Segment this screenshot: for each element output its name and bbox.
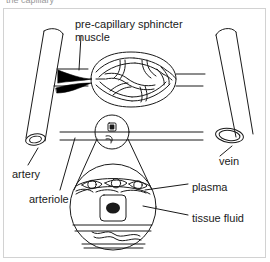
tissue-cell	[100, 195, 126, 221]
capillary-network	[91, 52, 176, 107]
tissue-fluid-leader-line	[143, 206, 188, 215]
capillary-to-vein-branch	[176, 74, 205, 86]
label-vein: vein	[219, 155, 239, 168]
vein-vessel	[215, 28, 253, 144]
label-arteriole: arteriole	[29, 193, 69, 206]
arteriole-leader-line	[60, 138, 75, 190]
endothelial-cells	[76, 179, 147, 193]
capillary-diagram-figure: the capillary	[0, 0, 270, 262]
label-tissue-fluid: tissue fluid	[192, 212, 244, 225]
capillary-magnified-detail	[70, 164, 156, 250]
artery-leader-line	[28, 148, 38, 165]
label-plasma: plasma	[192, 181, 227, 194]
sphincter-muscle	[56, 70, 92, 93]
label-artery: artery	[12, 168, 40, 181]
label-sphincter-muscle: pre-capillary sphincter muscle	[75, 18, 183, 44]
arteriole-vessel	[60, 132, 203, 140]
label-sphincter-line1: pre-capillary sphincter	[75, 18, 183, 31]
label-sphincter-line2: muscle	[75, 31, 183, 44]
